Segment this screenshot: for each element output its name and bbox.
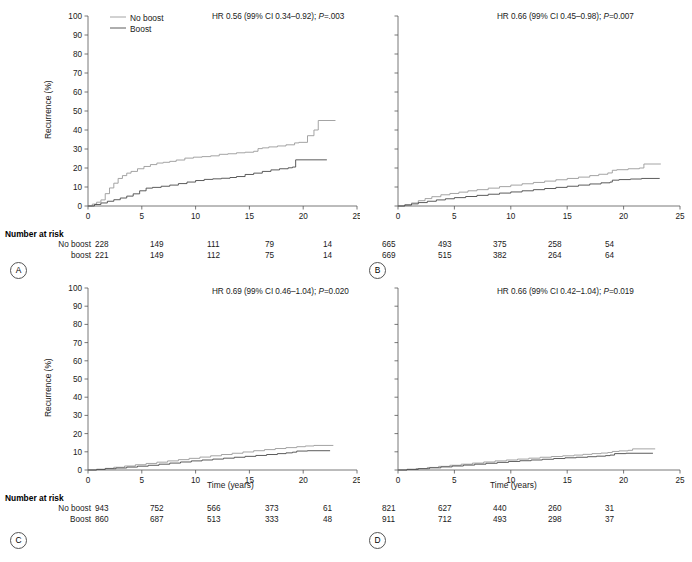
svg-text:25: 25	[352, 212, 360, 221]
panel-letter-d: D	[369, 532, 386, 549]
legend-label-boost-a: Boost	[130, 24, 151, 34]
panel-d: 0510152025 HR 0.66 (99% CI 0.42–1.04); P…	[360, 282, 692, 562]
panel-c-risk-label-boost: Boost	[36, 515, 91, 524]
svg-text:25: 25	[675, 476, 685, 485]
svg-text:60: 60	[73, 88, 83, 97]
panel-letter-b: B	[369, 262, 386, 279]
panel-a-risk-label-boost: boost	[36, 251, 91, 260]
panel-a-risk-label-noboost: No boost	[36, 240, 91, 249]
svg-text:0: 0	[77, 466, 82, 475]
panel-b-risk-boost-4: 64	[605, 251, 614, 260]
panel-a-risk-boost-4: 14	[323, 251, 332, 260]
svg-text:40: 40	[73, 126, 83, 135]
svg-text:100: 100	[68, 12, 82, 21]
panel-c-risk-noboost-4: 61	[323, 504, 332, 513]
panel-b-hr-suffix: =0.007	[609, 12, 634, 21]
panel-c-risk-noboost-2: 566	[207, 504, 221, 513]
panel-a-risk-noboost-2: 111	[207, 240, 219, 249]
panel-c: 01020304050607080901000510152025 HR 0.69…	[0, 282, 360, 562]
panel-d-x-axis-label: Time (years)	[490, 480, 537, 490]
panel-b-risk-noboost-3: 258	[548, 240, 562, 249]
panel-letter-a: A	[10, 262, 27, 279]
svg-text:30: 30	[73, 411, 83, 420]
panel-d-risk-noboost-2: 440	[493, 504, 507, 513]
panel-d-plot: 0510152025	[360, 282, 692, 494]
panel-b-hr-annotation: HR 0.66 (99% CI 0.45–0.98); P=0.007	[497, 12, 634, 21]
svg-text:60: 60	[73, 357, 83, 366]
svg-text:25: 25	[675, 212, 685, 221]
panel-c-risk-boost-1: 687	[150, 515, 164, 524]
panel-c-y-axis-label: Recurrence (%)	[43, 358, 53, 417]
panel-a-risk-boost-3: 75	[265, 251, 274, 260]
svg-text:10: 10	[191, 476, 201, 485]
svg-text:10: 10	[191, 212, 201, 221]
svg-text:25: 25	[352, 476, 360, 485]
panel-c-risk-title: Number at risk	[5, 493, 64, 503]
svg-text:10: 10	[73, 448, 83, 457]
svg-text:5: 5	[452, 212, 457, 221]
svg-text:0: 0	[396, 212, 401, 221]
panel-b-risk-boost-3: 264	[548, 251, 562, 260]
panel-a-risk-boost-2: 112	[207, 251, 220, 260]
panel-b-risk-noboost-4: 54	[605, 240, 614, 249]
kaplan-meier-figure: 01020304050607080901000510152025 HR 0.56…	[0, 0, 692, 562]
svg-text:15: 15	[245, 212, 255, 221]
panel-a-plot: 01020304050607080901000510152025	[0, 0, 360, 235]
panel-c-x-axis-label: Time (years)	[207, 480, 254, 490]
svg-text:0: 0	[86, 212, 91, 221]
panel-b-risk-boost-2: 382	[493, 251, 507, 260]
svg-text:20: 20	[299, 212, 309, 221]
panel-d-hr-prefix: HR 0.66 (99% CI 0.42–1.04);	[497, 287, 603, 296]
svg-text:5: 5	[452, 476, 457, 485]
svg-text:80: 80	[73, 320, 83, 329]
svg-text:50: 50	[73, 107, 83, 116]
svg-text:10: 10	[506, 212, 516, 221]
panel-d-risk-boost-2: 493	[493, 515, 507, 524]
svg-text:10: 10	[73, 183, 83, 192]
svg-text:50: 50	[73, 375, 83, 384]
panel-d-risk-boost-0: 911	[382, 515, 395, 524]
svg-text:30: 30	[73, 145, 83, 154]
svg-text:0: 0	[396, 476, 401, 485]
svg-text:20: 20	[619, 476, 629, 485]
svg-text:0: 0	[86, 476, 91, 485]
svg-text:20: 20	[73, 164, 83, 173]
svg-text:90: 90	[73, 302, 83, 311]
panel-b-risk-boost-1: 515	[438, 251, 452, 260]
svg-text:70: 70	[73, 69, 83, 78]
panel-a-risk-noboost-3: 79	[265, 240, 274, 249]
panel-letter-c: C	[10, 532, 27, 549]
panel-a-y-axis-label: Recurrence (%)	[43, 80, 53, 139]
panel-c-risk-boost-4: 48	[323, 515, 332, 524]
panel-c-plot: 01020304050607080901000510152025	[0, 282, 360, 494]
panel-a-risk-boost-0: 221	[95, 251, 109, 260]
panel-a-hr-suffix: =.003	[324, 12, 344, 21]
panel-c-hr-suffix: =0.020	[324, 287, 349, 296]
svg-text:15: 15	[563, 476, 573, 485]
panel-c-risk-noboost-1: 752	[150, 504, 164, 513]
svg-text:5: 5	[140, 212, 145, 221]
legend-label-noboost-a: No boost	[130, 13, 164, 23]
panel-b-risk-noboost-2: 375	[493, 240, 507, 249]
panel-d-risk-noboost-3: 260	[548, 504, 562, 513]
panel-d-risk-noboost-1: 627	[438, 504, 452, 513]
svg-text:40: 40	[73, 393, 83, 402]
panel-c-risk-boost-2: 513	[207, 515, 221, 524]
panel-d-risk-noboost-4: 31	[605, 504, 614, 513]
panel-b-hr-prefix: HR 0.66 (99% CI 0.45–0.98);	[497, 12, 603, 21]
panel-a-risk-noboost-4: 14	[323, 240, 332, 249]
panel-d-hr-suffix: =0.019	[609, 287, 634, 296]
svg-text:80: 80	[73, 50, 83, 59]
panel-b-risk-noboost-0: 665	[382, 240, 396, 249]
svg-text:20: 20	[73, 430, 83, 439]
panel-c-risk-label-noboost: No boost	[36, 504, 91, 513]
svg-text:20: 20	[619, 212, 629, 221]
panel-b-risk-boost-0: 669	[382, 251, 396, 260]
panel-a-risk-noboost-0: 228	[95, 240, 109, 249]
panel-a-hr-annotation: HR 0.56 (99% CI 0.34–0.92); P=.003	[212, 12, 344, 21]
panel-c-risk-boost-0: 860	[95, 515, 109, 524]
panel-a-risk-boost-1: 149	[150, 251, 164, 260]
panel-b-plot: 0510152025	[360, 0, 692, 235]
panel-a: 01020304050607080901000510152025 HR 0.56…	[0, 0, 360, 282]
svg-text:5: 5	[140, 476, 145, 485]
